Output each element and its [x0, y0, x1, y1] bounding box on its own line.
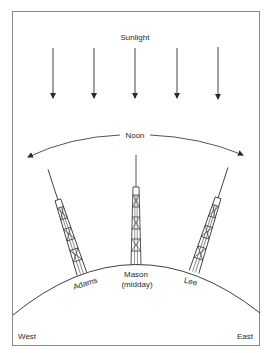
adams-label: Adams: [72, 275, 98, 291]
tower-mason-icon: [131, 155, 141, 265]
sunlight-tower-diagram: Sunlight Noon Adams Mason (midday) Lee W…: [0, 0, 267, 353]
mason-label: Mason: [124, 270, 148, 279]
west-label: West: [18, 332, 37, 341]
tower-adams-icon: [43, 168, 87, 276]
noon-label: Noon: [125, 131, 144, 140]
tower-lee-icon: [189, 166, 233, 274]
mason-midday-label: (midday): [121, 280, 152, 289]
sunlight-label: Sunlight: [121, 33, 151, 42]
lee-label: Lee: [183, 275, 199, 287]
noon-arc-right-arrow-icon: [150, 135, 243, 155]
east-label: East: [237, 332, 254, 341]
sunlight-arrows: [53, 47, 218, 99]
noon-arc-left-arrow-icon: [28, 135, 120, 157]
